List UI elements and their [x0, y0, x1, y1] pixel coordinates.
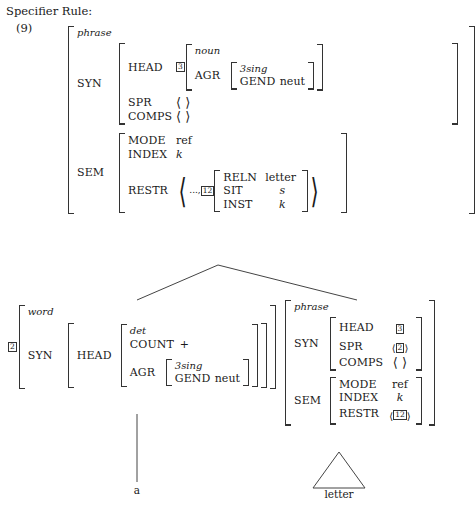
spec-syn-label: SYN	[28, 349, 68, 363]
headdtr-bracket-left	[285, 300, 292, 426]
det-type: det	[130, 325, 146, 337]
headdtr-sem-bracket-right	[415, 377, 422, 425]
headdtr-spr-angle-close: ⟩	[404, 343, 408, 354]
det-agr-type: 3sing	[175, 360, 203, 372]
branch-left	[137, 265, 218, 300]
headdtr-comps-value: ⟨ ⟩	[387, 356, 413, 369]
headdtr-spr-label: SPR	[339, 340, 387, 354]
headdtr-syn-avm: HEAD 3 SPR ⟨2⟩ COMPS ⟨ ⟩	[330, 317, 422, 371]
det-agr-row: AGR 3sing	[130, 359, 249, 387]
spec-bracket-right	[269, 305, 276, 389]
det-bracket-left	[121, 324, 128, 387]
headdtr-mode-label: MODE	[339, 378, 387, 392]
headdtr-comps-row: COMPS ⟨ ⟩	[339, 356, 413, 370]
headdtr-head-row: HEAD 3	[339, 318, 413, 337]
det-agr-type-row: 3sing	[175, 360, 240, 372]
det-bracket-right	[251, 324, 258, 387]
det-count-label: COUNT	[130, 338, 180, 352]
det-agr-bracket-right	[242, 359, 249, 387]
det-agr-label: AGR	[130, 366, 166, 380]
spec-head-value-avm: det COUNT + AGR	[121, 324, 258, 387]
headdtr-index-row: INDEX k	[339, 391, 413, 405]
specifier-daughter-avm: 2 word SYN HEAD	[8, 305, 276, 389]
headdtr-mode-row: MODE ref	[339, 378, 413, 392]
headdtr-restr-label: RESTR	[339, 407, 387, 421]
headdtr-index-value: k	[387, 391, 413, 405]
head-daughter-avm: phrase SYN HEAD 3 SPR ⟨2⟩	[285, 300, 435, 426]
det-agr-gend-row: GEND neut	[175, 372, 240, 386]
headdtr-syn-row: SYN HEAD 3 SPR ⟨2⟩	[294, 317, 422, 371]
branch-right	[218, 265, 357, 300]
det-agr-avm: 3sing GEND neut	[166, 359, 249, 387]
coref-tag-3-right: 3	[396, 324, 405, 334]
headdtr-sem-row: SEM MODE ref INDEX k RESTR ⟨12⟩	[294, 377, 422, 425]
headdtr-syn-bracket-right	[415, 317, 422, 371]
headdtr-sem-bracket-left	[330, 377, 337, 425]
spec-bracket-left	[19, 305, 26, 389]
headdtr-syn-label: SYN	[294, 337, 330, 351]
headdtr-mode-value: ref	[387, 378, 413, 392]
coref-tag-2-left: 2	[8, 342, 17, 352]
headdtr-index-label: INDEX	[339, 391, 387, 405]
coref-tag-12-right: 12	[393, 410, 407, 420]
terminal-a: a	[127, 484, 147, 496]
triangle-icon	[313, 452, 365, 488]
spec-syn-avm: HEAD det COUNT +	[68, 323, 267, 388]
det-agr-gend-value: neut	[215, 372, 240, 386]
spec-syn-bracket-left	[68, 323, 75, 388]
spec-type-row: word	[28, 306, 267, 318]
headdtr-type: phrase	[294, 301, 329, 313]
det-count-value: +	[180, 338, 189, 352]
terminal-letter: letter	[309, 488, 369, 500]
mother-syn-bracket-right	[451, 43, 458, 125]
det-count-row: COUNT +	[130, 338, 249, 352]
headdtr-restr-row: RESTR ⟨12⟩	[339, 405, 413, 424]
spec-head-label: HEAD	[77, 349, 121, 363]
headdtr-head-label: HEAD	[339, 321, 387, 335]
headdtr-spr-row: SPR ⟨2⟩	[339, 337, 413, 356]
headdtr-bracket-right	[428, 300, 435, 426]
spec-syn-row: SYN HEAD det	[28, 323, 267, 388]
headdtr-type-row: phrase	[294, 301, 422, 313]
headdtr-sem-avm: MODE ref INDEX k RESTR ⟨12⟩	[330, 377, 422, 425]
mother-bracket-right	[468, 26, 475, 214]
det-agr-gend-label: GEND	[175, 372, 215, 386]
det-agr-bracket-left	[166, 359, 173, 387]
headdtr-comps-label: COMPS	[339, 356, 387, 370]
headdtr-restr-angle-close: ⟩	[407, 411, 411, 422]
headdtr-sem-label: SEM	[294, 394, 330, 408]
spec-head-row: HEAD det COUNT +	[77, 324, 258, 387]
det-type-row: det	[130, 325, 249, 337]
spec-type: word	[28, 306, 54, 318]
headdtr-syn-bracket-left	[330, 317, 337, 371]
spec-syn-bracket-right	[260, 323, 267, 388]
